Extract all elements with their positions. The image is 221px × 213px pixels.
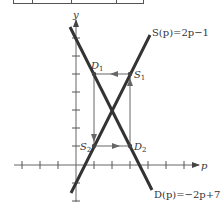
label-s2: S2 [80, 141, 91, 154]
point-d1 [92, 72, 96, 76]
y-axis-label: y [72, 9, 79, 20]
point-s1 [128, 72, 132, 76]
supply-curve [71, 35, 150, 193]
point-s2 [92, 144, 96, 148]
table-fragment [13, 0, 144, 4]
point-d2 [128, 144, 132, 148]
arrow-right-icon [112, 143, 120, 149]
cobweb-diagram: p y D1 [0, 0, 221, 213]
arrow-left-icon [110, 71, 118, 77]
label-s1: S1 [134, 69, 145, 82]
label-d2: D2 [133, 141, 147, 154]
p-axis: p [14, 160, 208, 171]
supply-equation-label: S(p)=2p−1 [152, 27, 209, 38]
p-axis-label: p [201, 160, 208, 171]
demand-equation-label: D(p)=−2p+7 [154, 189, 220, 200]
demand-curve [70, 27, 152, 190]
